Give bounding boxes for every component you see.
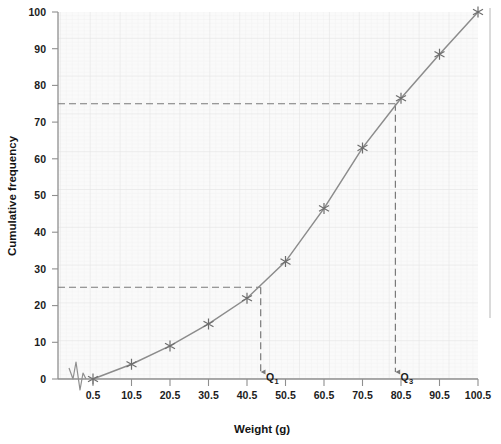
x-tick-label: 30.5: [198, 389, 219, 401]
x-axis-ticks: [93, 379, 478, 386]
x-tick-label: 40.5: [237, 389, 258, 401]
y-axis-ticks: [52, 12, 58, 379]
x-tick-label: 70.5: [352, 389, 373, 401]
x-tick-label: 80.5: [391, 389, 412, 401]
x-tick-label: 100.5: [465, 389, 491, 401]
q3-label-subscript: 3: [409, 377, 413, 386]
y-tick-label: 60: [34, 153, 46, 165]
q1-label-subscript: 1: [275, 377, 279, 386]
q3-label-text: Q: [401, 371, 409, 383]
y-tick-label: 70: [34, 116, 46, 128]
cumulative-frequency-chart: 0 10 20 30 40 50 60 70 80 90 100: [0, 0, 501, 444]
y-tick-label: 80: [34, 79, 46, 91]
x-axis-tick-labels: 0.5 10.5 20.5 30.5 40.5 50.5 60.5 70.5 8…: [86, 389, 492, 401]
y-tick-label: 100: [28, 6, 46, 18]
y-tick-label: 0: [40, 373, 46, 385]
plot-grid: [58, 12, 478, 379]
x-axis-title: Weight (g): [234, 423, 290, 435]
x-tick-label: 20.5: [160, 389, 181, 401]
x-tick-label: 90.5: [429, 389, 450, 401]
y-tick-label: 20: [34, 299, 46, 311]
y-tick-label: 10: [34, 336, 46, 348]
y-tick-label: 50: [34, 189, 46, 201]
y-axis-title: Cumulative frequency: [6, 135, 18, 256]
y-tick-label: 90: [34, 43, 46, 55]
y-tick-label: 30: [34, 263, 46, 275]
chart-canvas: 0 10 20 30 40 50 60 70 80 90 100: [0, 0, 501, 444]
x-tick-label: 0.5: [86, 389, 101, 401]
x-tick-label: 50.5: [275, 389, 296, 401]
q1-label-text: Q: [266, 371, 274, 383]
x-tick-label: 10.5: [121, 389, 142, 401]
x-tick-label: 60.5: [314, 389, 335, 401]
y-tick-label: 40: [34, 226, 46, 238]
y-axis-tick-labels: 0 10 20 30 40 50 60 70 80 90 100: [28, 6, 46, 385]
